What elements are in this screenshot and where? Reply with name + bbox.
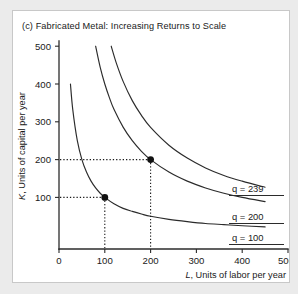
- y-tick-labels: 500 400 300 200 100: [35, 41, 51, 203]
- curve-labels-group: q = 239 q = 200 q = 100: [229, 183, 284, 245]
- x-tick-label-200: 200: [143, 255, 159, 266]
- guide-lines-group: [60, 160, 151, 248]
- x-tick-label-400: 400: [234, 255, 250, 266]
- y-axis-title-text: , Units of capital per year: [17, 92, 27, 194]
- isoquant-curve-q239: [111, 46, 265, 187]
- isoquant-curve-q200: [96, 46, 265, 201]
- y-tick-label-300: 300: [35, 116, 51, 127]
- curve-label-q200: q = 200: [232, 211, 264, 222]
- figure-panel: (c) Fabricated Metal: Increasing Returns…: [12, 10, 290, 283]
- data-point-100-100: [101, 194, 108, 201]
- data-points-group: [101, 156, 154, 201]
- x-tick-label-500: 500: [278, 255, 290, 266]
- curves-group: [70, 46, 265, 227]
- x-tick-labels: 0 100 200 300 400 500: [56, 255, 290, 266]
- x-tick-label-100: 100: [97, 255, 113, 266]
- curve-label-q239: q = 239: [232, 183, 264, 194]
- y-tick-label-200: 200: [35, 154, 51, 165]
- x-axis-title-text: , Units of labor per year: [191, 270, 287, 280]
- x-axis-title: L, Units of labor per year: [185, 270, 286, 280]
- isoquant-chart: 500 400 300 200 100 0 100 200 300 400 50…: [12, 10, 290, 283]
- y-tick-label-500: 500: [35, 41, 51, 52]
- curve-label-q100: q = 100: [232, 232, 264, 243]
- x-tick-label-0: 0: [56, 255, 61, 266]
- y-axis-title: K, Units of capital per year: [17, 92, 27, 200]
- data-point-200-200: [147, 156, 154, 163]
- y-tick-label-100: 100: [35, 192, 51, 203]
- isoquant-curve-q100: [70, 84, 265, 227]
- x-tick-label-300: 300: [188, 255, 204, 266]
- y-tick-label-400: 400: [35, 79, 51, 90]
